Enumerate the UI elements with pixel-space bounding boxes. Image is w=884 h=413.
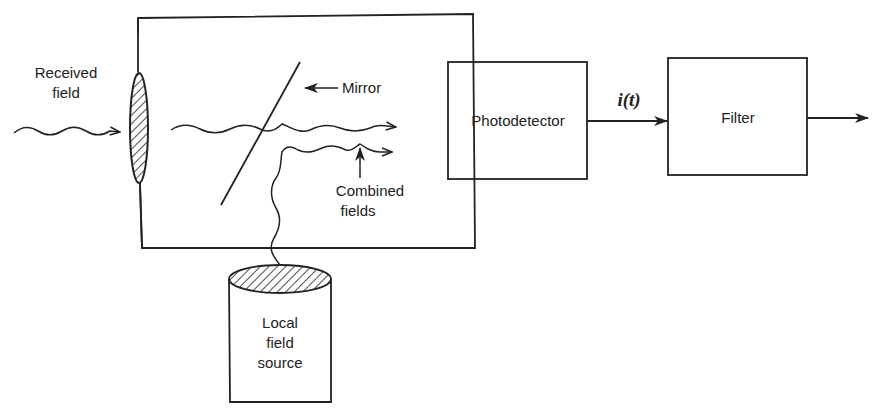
heterodyne-receiver-diagram: Received field Mirror Combined fields Lo… — [0, 0, 884, 413]
svg-text:Photodetector: Photodetector — [471, 112, 564, 129]
lens-icon — [130, 73, 148, 183]
current-signal-label: i(t) — [617, 89, 640, 111]
svg-text:field: field — [266, 334, 294, 351]
svg-text:Local: Local — [262, 314, 298, 331]
enclosure-left-lower — [140, 185, 142, 248]
signal-wave — [171, 124, 396, 133]
source-aperture-icon — [229, 265, 331, 293]
svg-text:field: field — [52, 84, 80, 101]
received-field-wave — [14, 127, 120, 135]
combined-fields-label-line2: fields — [340, 202, 375, 219]
filter-block: Filter — [668, 58, 807, 175]
svg-text:Filter: Filter — [721, 109, 754, 126]
mirror-label: Mirror — [342, 79, 381, 96]
mirror-icon — [221, 62, 300, 205]
svg-text:source: source — [257, 354, 302, 371]
combined-fields-label-line1: Combined — [336, 182, 404, 199]
local-field-source: Local field source — [229, 265, 331, 402]
received-field-label: Received field — [35, 64, 98, 101]
photodetector-block: Photodetector — [448, 62, 587, 179]
svg-text:Received: Received — [35, 64, 98, 81]
